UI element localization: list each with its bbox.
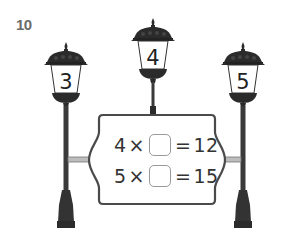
times-sign: × [129, 134, 145, 156]
times-sign: × [129, 165, 145, 187]
left-lamp-number: 3 [51, 70, 81, 94]
factor: 4 [114, 134, 127, 156]
equals-sign: = [175, 134, 191, 156]
sign-frame [89, 115, 225, 204]
equals-sign: = [175, 165, 191, 187]
answer-box[interactable] [149, 134, 171, 156]
factor: 5 [114, 165, 127, 187]
product: 15 [193, 165, 218, 187]
middle-lamp-number: 4 [138, 46, 168, 70]
right-lamp-number: 5 [228, 70, 258, 94]
equation-row-1: 4 × = 12 [114, 134, 219, 156]
lamp-scene [0, 0, 281, 235]
answer-box[interactable] [149, 165, 171, 187]
equation-row-2: 5 × = 15 [114, 165, 219, 187]
product: 12 [193, 134, 218, 156]
